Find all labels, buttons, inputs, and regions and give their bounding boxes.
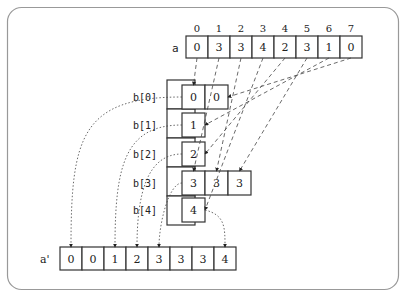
bucket-labels: b[0]b[1]b[2]b[3]b[4] <box>133 92 157 216</box>
input-cell: 3 <box>230 36 252 58</box>
cell-value: 4 <box>260 41 267 54</box>
input-array-label: a <box>172 42 179 55</box>
cell-value: 3 <box>216 41 223 54</box>
output-cell: 0 <box>60 247 82 270</box>
input-cell: 3 <box>296 36 318 58</box>
gather-edge <box>71 97 182 247</box>
input-index: 5 <box>304 23 310 34</box>
input-cell: 3 <box>208 36 230 58</box>
cell-value: 3 <box>190 177 197 190</box>
cell-value: 1 <box>326 41 333 54</box>
bucket-label: b[4] <box>133 205 157 216</box>
bucket-sort-diagram: a 03342310 01234567 b[0]b[1]b[2]b[3]b[4]… <box>0 0 403 292</box>
cell-value: 2 <box>190 148 197 161</box>
cell-value: 0 <box>190 91 197 104</box>
output-array: a' 00123334 <box>40 247 236 270</box>
bucket-cell: 3 <box>228 171 251 195</box>
cell-value: 0 <box>90 253 97 266</box>
cell-value: 0 <box>194 41 201 54</box>
input-index: 7 <box>348 23 354 34</box>
cell-value: 3 <box>238 41 245 54</box>
cell-value: 0 <box>68 253 75 266</box>
output-cell: 3 <box>148 247 170 270</box>
output-cell: 2 <box>126 247 148 270</box>
bucket-label: b[2] <box>133 149 157 160</box>
cell-value: 3 <box>200 253 207 266</box>
cell-value: 3 <box>156 253 163 266</box>
bucket-cell: 1 <box>182 113 205 137</box>
bucket-cell: 0 <box>182 85 205 109</box>
bucket-cell: 2 <box>182 142 205 166</box>
input-index: 0 <box>194 23 200 34</box>
input-array-indices: 01234567 <box>194 23 354 34</box>
output-cell: 3 <box>170 247 192 270</box>
cell-value: 4 <box>222 253 229 266</box>
cell-value: 0 <box>348 41 355 54</box>
output-array-label: a' <box>40 253 50 266</box>
input-cell: 2 <box>274 36 296 58</box>
cell-value: 1 <box>112 253 119 266</box>
output-cell: 0 <box>82 247 104 270</box>
bucket-label: b[3] <box>133 178 157 189</box>
scatter-edge <box>240 58 308 171</box>
cell-value: 3 <box>178 253 185 266</box>
input-array: a 03342310 <box>172 36 362 58</box>
bucket-cell: 3 <box>182 171 205 195</box>
bucket-label: b[0] <box>133 92 157 103</box>
cell-value: 3 <box>304 41 311 54</box>
input-index: 3 <box>260 23 266 34</box>
input-index: 2 <box>238 23 244 34</box>
gather-edge <box>205 210 225 247</box>
scatter-edge <box>228 58 351 97</box>
cell-value: 3 <box>236 177 243 190</box>
input-cell: 0 <box>340 36 362 58</box>
cell-value: 2 <box>134 253 141 266</box>
scatter-edge <box>217 58 242 171</box>
cell-value: 2 <box>282 41 289 54</box>
cell-value: 4 <box>190 204 197 217</box>
cell-value: 1 <box>190 119 197 132</box>
bucket-cell: 4 <box>182 198 205 222</box>
input-cell: 0 <box>186 36 208 58</box>
output-cell: 3 <box>192 247 214 270</box>
input-index: 1 <box>216 23 222 34</box>
input-index: 6 <box>326 23 332 34</box>
diagram-canvas: a 03342310 01234567 b[0]b[1]b[2]b[3]b[4]… <box>0 0 403 292</box>
output-cell: 4 <box>214 247 236 270</box>
input-cell: 4 <box>252 36 274 58</box>
input-index: 4 <box>282 23 288 34</box>
bucket-cell: 3 <box>205 171 228 195</box>
cell-value: 0 <box>213 91 220 104</box>
output-cell: 1 <box>104 247 126 270</box>
bucket-cell: 0 <box>205 85 228 109</box>
input-cell: 1 <box>318 36 340 58</box>
